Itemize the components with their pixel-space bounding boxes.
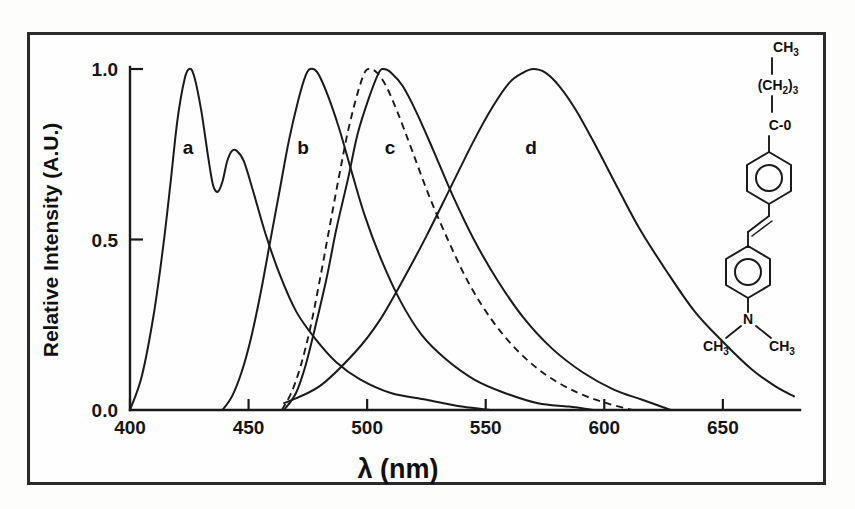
spectrum-curve-c [284,69,671,410]
benzene-ring-upper [747,152,791,204]
x-tick-label: 400 [114,417,146,438]
carbonyl-label: C-0 [769,117,792,133]
x-tick-labels: 400450500550600650 [114,417,739,438]
curve-group [130,69,794,410]
axis-group: 400450500550600650 0.00.51.0 [92,59,800,438]
methyl-right-label: CH3 [769,338,795,357]
curve-label-a: a [183,137,194,158]
x-tick-label: 550 [470,417,502,438]
y-tick-label: 1.0 [92,59,118,80]
methyl-top-label: CH3 [773,39,799,58]
vinyl-bond-1 [748,216,769,232]
x-tick-label: 650 [707,417,739,438]
aromatic-circle-upper [756,165,782,191]
figure-container: 400450500550600650 0.00.51.0 a b c d λ (… [0,0,855,509]
bond-n-methyl-left [726,326,741,338]
x-axis-title: λ (nm) [358,454,439,484]
y-axis-ticks [130,69,143,240]
y-tick-label: 0.5 [92,230,119,251]
spectrum-curve-a [130,69,490,410]
x-tick-label: 450 [233,417,265,438]
bond-n-methyl-right [756,326,771,338]
y-axis-title: Relative Intensity (A.U.) [39,123,62,358]
x-tick-label: 600 [588,417,620,438]
chain-label: (CH2)3 [758,77,799,96]
benzene-ring-lower [726,246,770,298]
curve-label-c: c [385,137,396,158]
nitrogen-label: N [743,311,753,327]
molecule-structure: CH3 (CH2)3 C-0 N [703,39,799,357]
spectrum-curve-b [222,69,594,410]
curve-label-b: b [297,137,309,158]
y-tick-labels: 0.00.51.0 [92,59,119,421]
methyl-left-label: CH3 [703,338,729,357]
y-tick-label: 0.0 [92,400,118,421]
curve-label-d: d [525,137,537,158]
spectra-plot: 400450500550600650 0.00.51.0 a b c d λ (… [0,0,855,509]
aromatic-circle-lower [735,259,761,285]
x-tick-label: 500 [351,417,383,438]
vinyl-double-bond [752,221,772,236]
